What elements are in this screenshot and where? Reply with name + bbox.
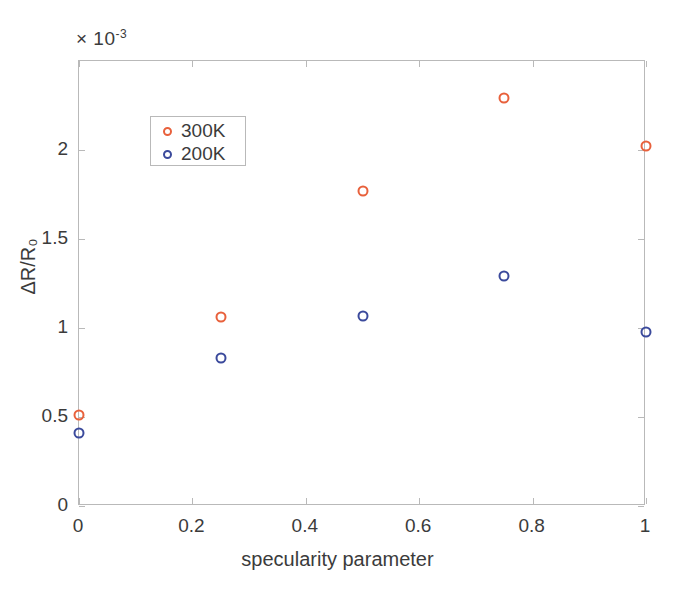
y-axis-title: ΔR/R₀	[17, 197, 40, 337]
x-tick-label: 0.8	[518, 515, 544, 537]
x-tick-label: 1	[640, 515, 651, 537]
x-tick-label: 0.4	[292, 515, 318, 537]
data-point-300k	[215, 312, 226, 323]
x-tick-top	[419, 61, 420, 67]
scatter-plot-figure: × 10-3 00.20.40.60.81 00.511.52 specular…	[0, 0, 675, 600]
x-tick	[192, 498, 193, 504]
legend-entry-300k[interactable]: 300K	[151, 119, 245, 143]
y-tick-label: 0	[10, 494, 68, 516]
data-point-200k	[641, 326, 652, 337]
data-point-300k	[499, 93, 510, 104]
y-tick	[79, 239, 85, 240]
legend-marker-icon	[163, 127, 172, 136]
x-tick-label: 0	[73, 515, 84, 537]
y-tick-right	[638, 239, 644, 240]
data-point-300k	[357, 185, 368, 196]
x-tick-top	[533, 61, 534, 67]
x-tick	[533, 498, 534, 504]
x-axis-title: specularity parameter	[0, 548, 675, 571]
y-tick-label: 0.5	[10, 405, 68, 427]
x-tick-top	[192, 61, 193, 67]
data-point-200k	[499, 271, 510, 282]
data-point-200k	[215, 353, 226, 364]
y-tick	[79, 328, 85, 329]
legend-box: 300K200K	[150, 116, 246, 166]
data-point-300k	[641, 141, 652, 152]
legend-label: 200K	[181, 143, 225, 165]
data-point-200k	[74, 428, 85, 439]
y-tick-label: 2	[10, 138, 68, 160]
legend-label: 300K	[181, 120, 225, 142]
y-axis-exponent-power: -3	[116, 27, 128, 41]
data-point-300k	[74, 410, 85, 421]
x-tick-top	[306, 61, 307, 67]
x-tick-label: 0.6	[405, 515, 431, 537]
x-tick	[306, 498, 307, 504]
y-tick-right	[638, 417, 644, 418]
x-tick	[79, 498, 80, 504]
x-tick-top	[79, 61, 80, 67]
x-tick-top	[646, 61, 647, 67]
legend-entry-200k[interactable]: 200K	[151, 142, 245, 166]
x-tick	[419, 498, 420, 504]
legend-marker-icon	[163, 150, 172, 159]
x-tick-label: 0.2	[178, 515, 204, 537]
y-axis-exponent-mantissa: × 10	[76, 28, 116, 49]
y-tick-right	[638, 506, 644, 507]
data-point-200k	[357, 310, 368, 321]
y-tick	[79, 506, 85, 507]
x-tick	[646, 498, 647, 504]
y-tick	[79, 150, 85, 151]
y-axis-exponent-label: × 10-3	[76, 28, 127, 50]
